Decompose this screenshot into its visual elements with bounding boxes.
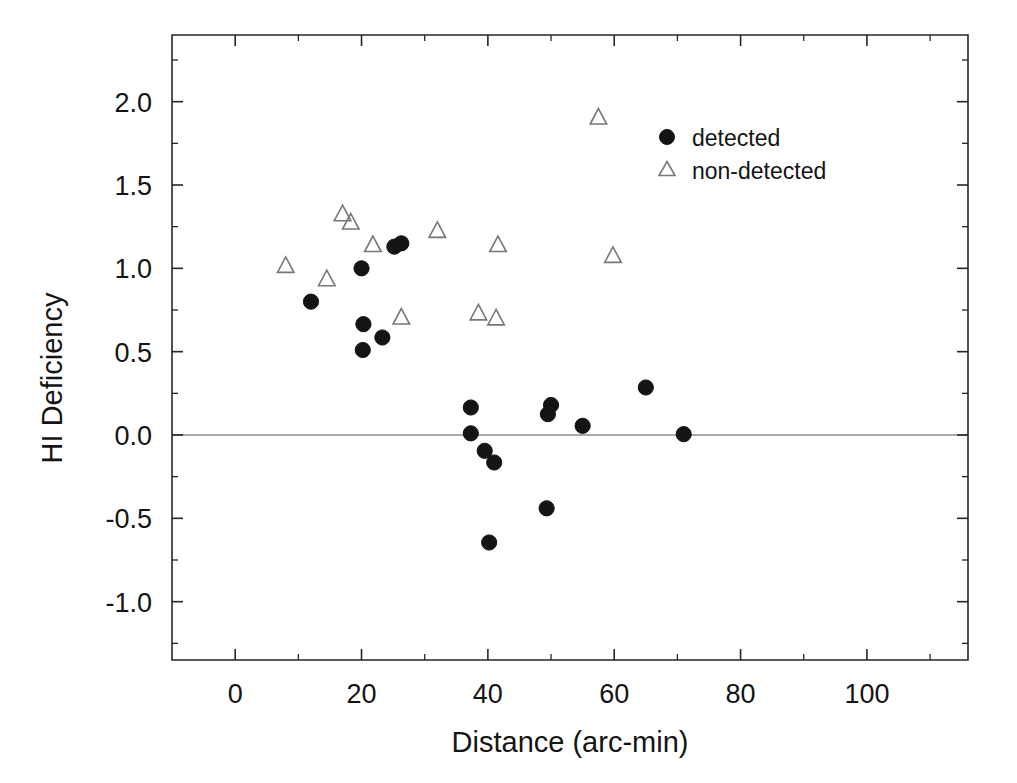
plot-svg: 020406080100 -1.0-0.50.00.51.01.52.0 Dis…: [0, 0, 1017, 783]
x-tick-label: 20: [347, 679, 377, 709]
point-detected: [355, 342, 370, 357]
point-detected: [354, 261, 369, 276]
point-detected: [394, 236, 409, 251]
legend-label-detected: detected: [692, 125, 780, 151]
point-detected: [356, 317, 371, 332]
x-tick-label: 60: [599, 679, 629, 709]
y-tick-label: -0.5: [105, 504, 152, 534]
point-detected: [539, 501, 554, 516]
x-tick-label: 100: [844, 679, 889, 709]
point-detected: [303, 294, 318, 309]
y-tick-label: 1.5: [114, 171, 152, 201]
point-detected: [676, 427, 691, 442]
y-tick-label: 1.0: [114, 254, 152, 284]
y-tick-label: 2.0: [114, 88, 152, 118]
y-tick-label: 0.5: [114, 338, 152, 368]
point-detected: [638, 380, 653, 395]
legend-marker-detected: [660, 130, 675, 145]
x-tick-label: 0: [228, 679, 243, 709]
y-tick-label: 0.0: [114, 421, 152, 451]
x-axis-title: Distance (arc-min): [452, 726, 689, 758]
point-detected: [463, 400, 478, 415]
y-tick-label: -1.0: [105, 588, 152, 618]
point-detected: [482, 535, 497, 550]
point-detected: [575, 418, 590, 433]
x-tick-label: 80: [726, 679, 756, 709]
y-axis-title: HI Deficiency: [36, 292, 68, 463]
scatter-plot-figure: 020406080100 -1.0-0.50.00.51.01.52.0 Dis…: [0, 0, 1017, 783]
point-detected: [487, 455, 502, 470]
legend-label-non-detected: non-detected: [692, 158, 826, 184]
x-tick-label: 40: [473, 679, 503, 709]
plot-background: [0, 0, 1017, 783]
point-detected: [375, 330, 390, 345]
point-detected: [543, 397, 558, 412]
point-detected: [463, 426, 478, 441]
